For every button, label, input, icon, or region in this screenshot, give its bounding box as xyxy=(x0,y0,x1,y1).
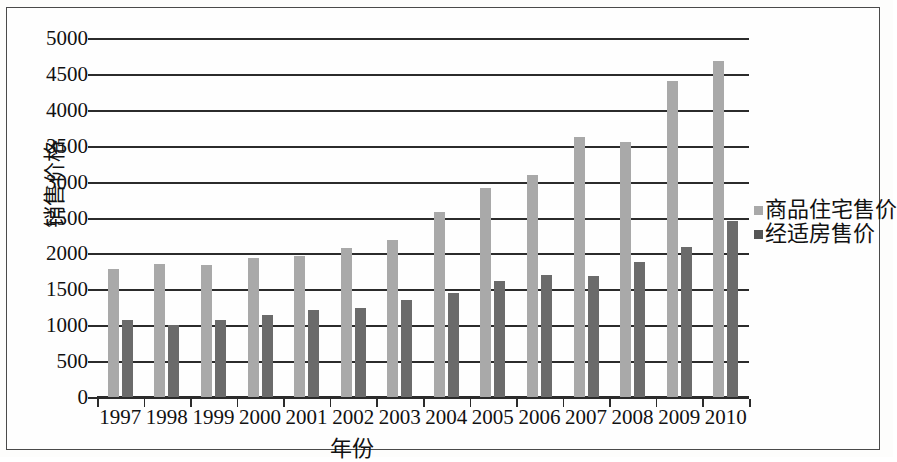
y-axis-tick-label: 500 xyxy=(57,351,89,372)
y-axis-tick-label: 2000 xyxy=(46,243,88,264)
legend-swatch-icon xyxy=(754,206,763,215)
bar-commodity-housing-2005 xyxy=(480,188,491,398)
bar-affordable-housing-2001 xyxy=(308,310,319,398)
bar-affordable-housing-1998 xyxy=(168,325,179,398)
legend-swatch-icon xyxy=(754,230,763,239)
bar-affordable-housing-1999 xyxy=(215,320,226,398)
bar-commodity-housing-2001 xyxy=(294,256,305,398)
gridline xyxy=(97,74,749,76)
gridline xyxy=(97,182,749,184)
gridline xyxy=(97,146,749,148)
gridline xyxy=(97,253,749,255)
bar-affordable-housing-2005 xyxy=(494,281,505,398)
bar-commodity-housing-2003 xyxy=(387,240,398,398)
chart-legend: 商品住宅售价 经适房售价 xyxy=(754,198,878,246)
bar-commodity-housing-1999 xyxy=(201,265,212,398)
bar-affordable-housing-2002 xyxy=(355,308,366,398)
bar-commodity-housing-2006 xyxy=(527,175,538,398)
bar-affordable-housing-2006 xyxy=(541,275,552,398)
gridline xyxy=(97,289,749,291)
y-axis-tick-mark xyxy=(88,38,97,40)
y-axis-tick-mark xyxy=(88,361,97,363)
bar-commodity-housing-2002 xyxy=(341,248,352,398)
gridline xyxy=(97,218,749,220)
bar-affordable-housing-1997 xyxy=(122,320,133,398)
bar-commodity-housing-2009 xyxy=(667,81,678,398)
legend-item: 经适房售价 xyxy=(754,222,878,246)
y-axis-tick-label: 3500 xyxy=(46,136,88,157)
bar-affordable-housing-2009 xyxy=(681,247,692,398)
y-axis-tick-label: 1000 xyxy=(46,315,88,336)
bar-affordable-housing-2004 xyxy=(448,293,459,398)
y-axis-tick-label: 5000 xyxy=(46,28,88,49)
y-axis-tick-mark xyxy=(88,146,97,148)
x-axis-tick-labels: 1997199819992000200120022003200420052006… xyxy=(97,406,749,434)
y-axis-tick-label: 1500 xyxy=(46,279,88,300)
y-axis-tick-labels: 0500100015002000250030003500400045005000 xyxy=(20,39,88,398)
bar-commodity-housing-2000 xyxy=(248,258,259,398)
gridline xyxy=(97,38,749,40)
bar-commodity-housing-2007 xyxy=(574,137,585,398)
bar-affordable-housing-2003 xyxy=(401,300,412,398)
legend-item: 商品住宅售价 xyxy=(754,198,878,222)
x-axis-title: 年份 xyxy=(330,430,374,462)
bar-commodity-housing-1997 xyxy=(108,269,119,398)
y-axis-tick-mark xyxy=(88,325,97,327)
y-axis-tick-mark xyxy=(88,110,97,112)
bar-affordable-housing-2008 xyxy=(634,262,645,398)
gridline xyxy=(97,361,749,363)
y-axis-tick-label: 2500 xyxy=(46,208,88,229)
y-axis-tick-label: 3000 xyxy=(46,172,88,193)
legend-label: 商品住宅售价 xyxy=(765,199,897,221)
bar-commodity-housing-1998 xyxy=(154,264,165,398)
y-axis-tick-mark xyxy=(88,74,97,76)
y-axis-tick-mark xyxy=(88,289,97,291)
bar-affordable-housing-2010 xyxy=(727,221,738,398)
y-axis-tick-mark xyxy=(88,182,97,184)
y-axis-tick-label: 4500 xyxy=(46,64,88,85)
y-axis-tick-label: 4000 xyxy=(46,100,88,121)
y-axis-tick-mark xyxy=(88,397,97,399)
plot-area xyxy=(97,39,749,398)
bar-affordable-housing-2007 xyxy=(588,276,599,398)
y-axis-tick-label: 0 xyxy=(78,387,89,408)
y-axis-tick-mark xyxy=(88,253,97,255)
gridline xyxy=(97,325,749,327)
x-axis-tick-label: 2010 xyxy=(698,406,753,428)
bar-commodity-housing-2010 xyxy=(713,61,724,398)
bar-affordable-housing-2000 xyxy=(262,315,273,398)
bar-commodity-housing-2004 xyxy=(434,212,445,398)
y-axis-tick-mark xyxy=(88,218,97,220)
gridline xyxy=(97,110,749,112)
legend-label: 经适房售价 xyxy=(765,223,875,245)
bar-commodity-housing-2008 xyxy=(620,142,631,398)
